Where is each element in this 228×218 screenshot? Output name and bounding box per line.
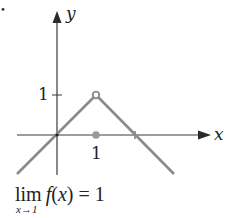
x-tick-label: 1: [91, 143, 102, 163]
limit-caption: limf(x) = 1 x→1: [15, 184, 105, 205]
curve-left-branch: [17, 98, 94, 175]
open-circle-hole: [93, 92, 100, 99]
limit-figure: • y x 1 1 limf(x) = 1 x→1: [0, 0, 228, 218]
x-axis-arrow-icon: [198, 131, 211, 140]
x-axis-label: x: [214, 124, 224, 144]
y-tick-label: 1: [38, 84, 49, 104]
origin-point: [55, 133, 58, 136]
filled-point: [92, 131, 100, 139]
y-axis-label: y: [66, 3, 76, 23]
curve-right-branch: [99, 98, 175, 175]
limit-rest: (x) = 1: [51, 183, 105, 205]
lim-word: lim: [15, 183, 42, 205]
y-axis-arrow-icon: [53, 11, 62, 23]
limit-subscript: x→1: [16, 204, 37, 215]
